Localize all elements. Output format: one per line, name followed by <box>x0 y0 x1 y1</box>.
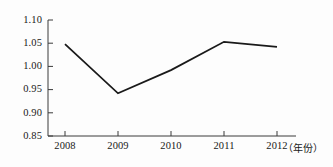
y-axis <box>48 20 53 136</box>
x-axis-label-2008: 2008 <box>43 140 87 151</box>
y-axis-label-105: 1.05 <box>8 37 42 48</box>
y-axis-label-100: 1.00 <box>8 60 42 71</box>
y-axis-label-085: 0.85 <box>8 130 42 141</box>
x-axis <box>48 131 296 136</box>
x-axis-label-2011: 2011 <box>202 140 246 151</box>
x-axis-label-2010: 2010 <box>149 140 193 151</box>
x-axis-label-2009: 2009 <box>96 140 140 151</box>
x-axis-unit-note: （年份） <box>283 140 323 155</box>
y-axis-label-095: 0.95 <box>8 83 42 94</box>
y-axis-label-090: 0.90 <box>8 107 42 118</box>
y-axis-label-110: 1.10 <box>8 14 42 25</box>
line-chart: 1.10 1.05 1.00 0.95 0.90 0.85 2008 2009 … <box>0 0 333 167</box>
data-series-line <box>65 42 277 93</box>
